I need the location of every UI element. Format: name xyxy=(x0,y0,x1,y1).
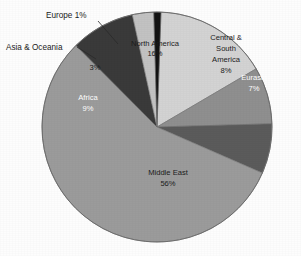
pie-label-eurasia-line-2: 7% xyxy=(249,84,260,93)
pie-label-middle-east-line-2: 56% xyxy=(160,179,175,188)
pie-label-africa-line-2: 9% xyxy=(83,104,94,113)
pie-label-middle-east-line-1: Middle East xyxy=(148,168,189,177)
pie-label-central-south-america-line-3: America xyxy=(212,55,241,64)
pie-label-north-america-line-1: North America xyxy=(131,39,180,48)
pie-label-africa-line-1: Africa xyxy=(78,93,98,102)
asia-oceania-callout-text: Asia & Oceania xyxy=(6,43,63,52)
pie-label-central-south-america-line-2: South xyxy=(216,44,236,53)
pie-chart-figure: North America16%Central &SouthAmerica8%E… xyxy=(0,0,301,256)
pie-label-north-america-line-2: 16% xyxy=(147,49,162,58)
pie-chart-svg: North America16%Central &SouthAmerica8%E… xyxy=(0,0,301,256)
pie-label-central-south-america-line-1: Central & xyxy=(210,33,242,42)
europe-callout-text: Europe 1% xyxy=(46,11,87,20)
pie-label-asia-oceania-line-1: 3% xyxy=(90,63,101,72)
pie-label-central-south-america-line-4: 8% xyxy=(221,66,232,75)
pie-label-eurasia-line-1: Eurasia xyxy=(241,73,268,82)
